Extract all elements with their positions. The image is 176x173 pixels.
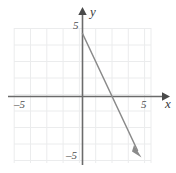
line-arrowhead <box>132 145 142 158</box>
y-axis-tick-label-minus-5: –5 <box>66 150 77 161</box>
y-axis-name-label: y <box>90 5 96 18</box>
x-axis-tick-label-minus-5: –5 <box>14 99 25 110</box>
graph-figure: 5 5 –5 –5 y x <box>0 0 176 173</box>
y-axis-tick-label-5: 5 <box>73 20 79 31</box>
x-axis-tick-label-5: 5 <box>141 99 147 110</box>
coordinate-plane-svg <box>0 0 176 173</box>
y-axis-arrowhead <box>78 7 86 15</box>
x-axis-name-label: x <box>165 97 171 110</box>
